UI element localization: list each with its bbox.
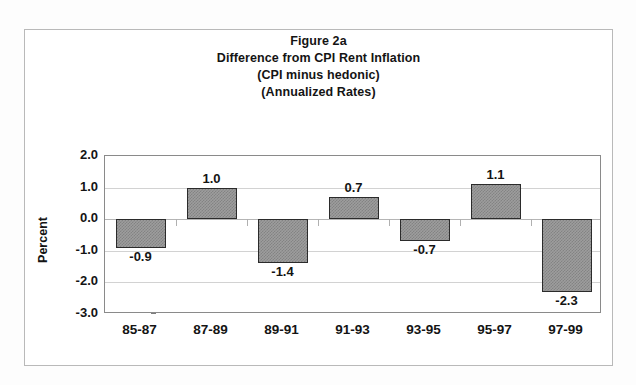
bar-group: -2.3 [531,156,602,312]
y-axis-tick-labels: 2.01.00.0-1.0-2.0-3.0 [52,155,98,313]
x-axis-tick-label: 97-99 [530,322,601,337]
x-axis-tick-label: 85-87 [104,322,175,337]
x-axis-tick-label: 95-97 [459,322,530,337]
x-axis-tick-label: 93-95 [388,322,459,337]
bar[interactable] [542,219,592,292]
y-axis-tick-label: 0.0 [80,211,98,225]
y-axis-tick-label: -1.0 [76,243,98,257]
bar[interactable] [471,184,521,219]
bar[interactable] [187,188,237,220]
bar-value-label: 0.7 [344,180,362,195]
bar-group: -0.7 [389,156,460,312]
bar[interactable] [116,219,166,247]
bar[interactable] [258,219,308,263]
x-axis-tick-labels: 85-8787-8989-9191-9393-9595-9797-99 [104,322,601,346]
bar-group: 0.7 [318,156,389,312]
bar-group: 1.0 [176,156,247,312]
bar[interactable] [329,197,379,219]
bar-group: -0.9 [105,156,176,312]
bar-value-label: 1.1 [486,167,504,182]
bar-value-label: -0.7 [413,242,435,257]
bar-group: -1.4 [247,156,318,312]
plot-area: -0.91.0-1.40.7-0.71.1-2.3 [104,155,601,313]
bar-value-label: -1.4 [271,264,293,279]
x-axis-tick-label: 89-91 [246,322,317,337]
y-axis-tick-label: -2.0 [76,274,98,288]
bar-group: 1.1 [460,156,531,312]
y-axis-tick-label: -3.0 [76,306,98,320]
y-axis-tick-label: 1.0 [80,180,98,194]
y-axis-tick-mark [151,313,156,314]
x-axis-tick-label: 87-89 [175,322,246,337]
bar-series: -0.91.0-1.40.7-0.71.1-2.3 [105,156,600,312]
bar-value-label: 1.0 [202,171,220,186]
y-axis-tick-label: 2.0 [80,148,98,162]
bar-value-label: -0.9 [129,249,151,264]
x-axis-tick-label: 91-93 [317,322,388,337]
bar-value-label: -2.3 [555,293,577,308]
y-axis-title-text: Percent [36,217,50,263]
scanned-page-background: Figure 2a Difference from CPI Rent Infla… [0,0,636,385]
bar[interactable] [400,219,450,241]
